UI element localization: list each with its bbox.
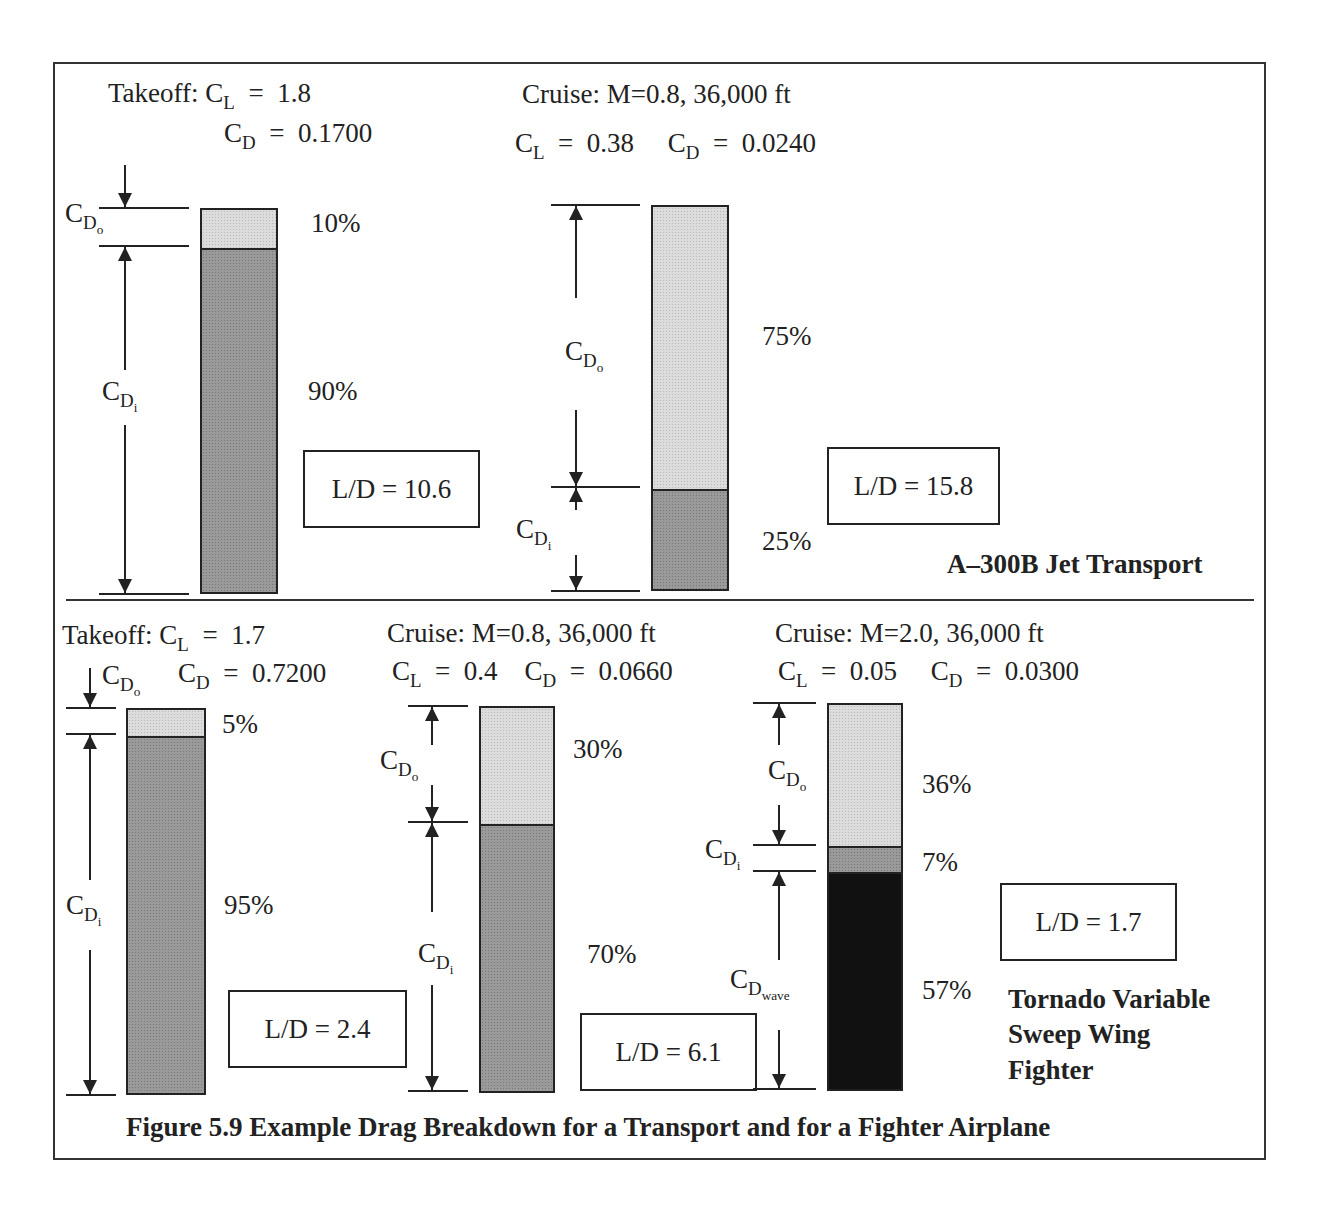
dimension-arrows — [0, 0, 1322, 1219]
